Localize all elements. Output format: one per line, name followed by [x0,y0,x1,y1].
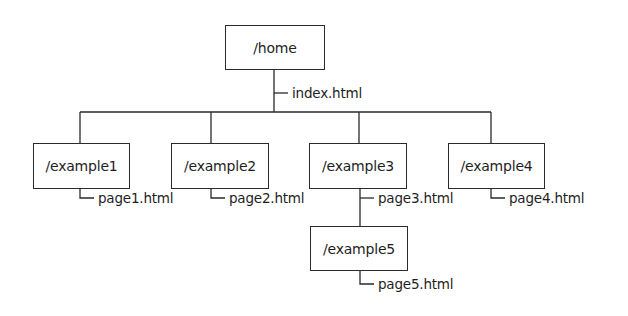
page-label-page3: page3.html [378,190,453,206]
node-home-label: /home [253,40,296,56]
node-example2: /example2 [171,143,269,189]
node-home: /home [225,25,325,70]
connector-page1 [80,188,94,198]
node-example5-label: /example5 [323,241,395,257]
page-label-index: index.html [292,85,362,101]
page-label-page1: page1.html [98,190,173,206]
node-example4-label: /example4 [460,158,532,174]
page-label-page5: page5.html [378,276,453,292]
node-example2-label: /example2 [184,158,256,174]
connector-page5 [360,270,374,284]
node-example3-label: /example3 [322,158,394,174]
page-label-page4: page4.html [509,190,584,206]
node-example5: /example5 [310,226,408,271]
connector-page4 [491,188,505,198]
node-example1: /example1 [33,143,130,189]
node-example4: /example4 [448,143,545,189]
connector-page2 [211,188,225,198]
page-label-page2: page2.html [229,190,304,206]
node-example3: /example3 [309,143,407,189]
node-example1-label: /example1 [45,158,117,174]
